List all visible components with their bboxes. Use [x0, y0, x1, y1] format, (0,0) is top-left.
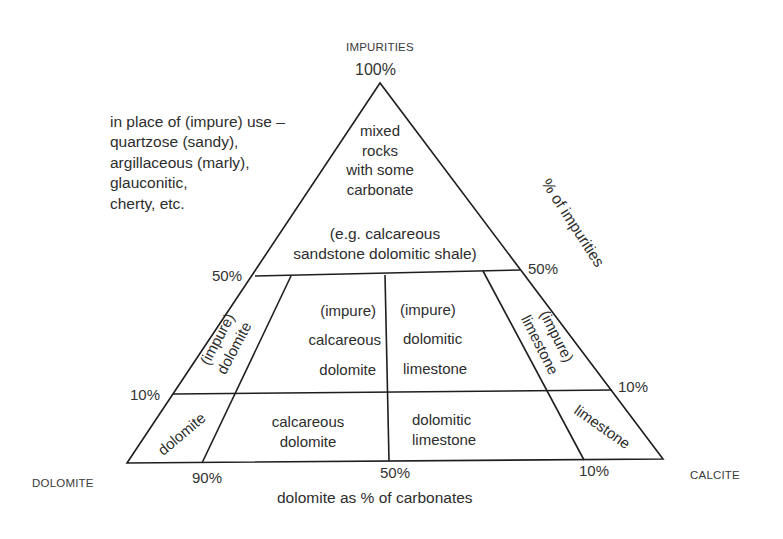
region-text: calcareous	[285, 325, 385, 354]
region-text: calcareous	[258, 412, 358, 432]
line-50-percent-impurities	[255, 270, 520, 276]
region-impure-calcareous-dolomite: (impure) calcareous dolomite	[285, 296, 385, 384]
corner-label-impurities: IMPURITIES	[346, 42, 414, 54]
region-text: (impure)	[285, 296, 385, 325]
region-text: rocks	[330, 141, 430, 161]
axis-title-dolomite-percent: dolomite as % of carbonates	[277, 490, 473, 506]
region-text: with some	[330, 160, 430, 180]
tick-right-10: 10%	[618, 379, 648, 394]
usage-note: in place of (impure) use – quartzose (sa…	[110, 112, 285, 214]
note-line: glauconitic,	[110, 173, 285, 193]
region-text: dolomite	[285, 355, 385, 384]
region-mixed-rocks-example: (e.g. calcareous sandstone dolomitic sha…	[275, 224, 495, 264]
region-impure-dolomitic-limestone: (impure) dolomitic limestone	[400, 295, 490, 383]
region-text: (impure)	[400, 295, 490, 324]
corner-label-calcite: CALCITE	[690, 470, 740, 482]
tick-bottom-90: 90%	[192, 470, 222, 485]
corner-value-100: 100%	[355, 62, 396, 78]
region-dolomitic-limestone: dolomitic limestone	[412, 410, 502, 449]
region-text: mixed	[330, 121, 430, 141]
region-text: dolomite	[258, 432, 358, 452]
corner-label-dolomite: DOLOMITE	[32, 478, 94, 490]
note-line: quartzose (sandy),	[110, 132, 285, 152]
region-text: dolomitic	[412, 410, 502, 430]
region-calcareous-dolomite: calcareous dolomite	[258, 412, 358, 451]
region-text: dolomitic	[400, 324, 490, 353]
note-line: argillaceous (marly),	[110, 153, 285, 173]
ternary-diagram-lines	[0, 0, 783, 539]
tick-right-50: 50%	[528, 261, 558, 276]
line-50-percent-dolomite	[385, 275, 389, 461]
region-text: sandstone dolomitic shale)	[275, 244, 495, 264]
note-line: in place of (impure) use –	[110, 112, 285, 132]
region-text: limestone	[412, 430, 502, 450]
region-text: limestone	[400, 354, 490, 383]
tick-left-10: 10%	[130, 387, 160, 402]
tick-bottom-50: 50%	[380, 465, 410, 480]
region-text: (e.g. calcareous	[275, 224, 495, 244]
region-text: carbonate	[330, 180, 430, 200]
tick-bottom-10: 10%	[579, 463, 609, 478]
note-line: cherty, etc.	[110, 194, 285, 214]
region-mixed-rocks: mixed rocks with some carbonate	[330, 121, 430, 199]
tick-left-50: 50%	[212, 268, 242, 283]
